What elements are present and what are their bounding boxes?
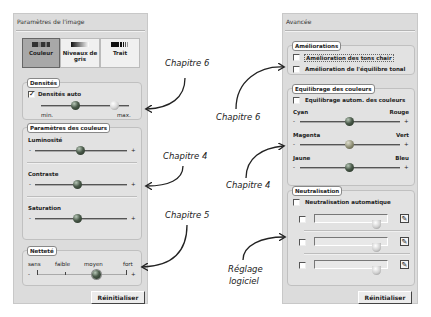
- annotation-arrows: [0, 0, 431, 317]
